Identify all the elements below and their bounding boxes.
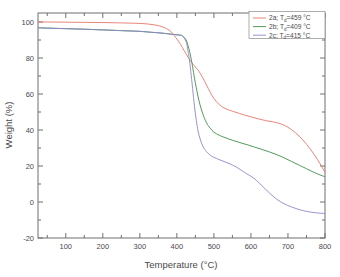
x-tick-label: 600 [245, 242, 258, 251]
x-axis-tick-labels: 100200300400500600700800 [60, 242, 332, 251]
x-axis-title: Temperature (°C) [145, 259, 218, 270]
x-tick-label: 300 [134, 242, 147, 251]
y-tick-label: 100 [21, 18, 34, 27]
y-axis-title: Weight (%) [3, 102, 14, 149]
chart-legend: 2a; Td=459 °C2b; Td=409 °C2c; Td=415 °C [249, 12, 325, 41]
chart-canvas: 100200300400500600700800 100806040200-20… [0, 0, 340, 277]
data-series-group [38, 22, 325, 214]
y-tick-label: 0 [30, 198, 34, 207]
y-tick-label: 60 [26, 90, 34, 99]
x-tick-label: 100 [60, 242, 73, 251]
series-line-2b [38, 28, 325, 177]
series-line-2a [38, 22, 325, 172]
x-tick-label: 800 [319, 242, 332, 251]
y-tick-label: 20 [26, 162, 34, 171]
x-tick-label: 700 [282, 242, 295, 251]
x-tick-label: 200 [97, 242, 110, 251]
tga-chart-figure: 100200300400500600700800 100806040200-20… [0, 0, 340, 277]
x-axis-ticks [47, 13, 325, 238]
y-tick-label: 40 [26, 126, 34, 135]
y-axis-ticks [38, 22, 325, 238]
y-tick-label: 80 [26, 54, 34, 63]
series-line-2c [38, 28, 325, 214]
y-tick-label: -20 [23, 234, 34, 243]
x-tick-label: 400 [171, 242, 184, 251]
y-axis-tick-labels: 100806040200-20 [21, 18, 34, 243]
x-tick-label: 500 [208, 242, 221, 251]
